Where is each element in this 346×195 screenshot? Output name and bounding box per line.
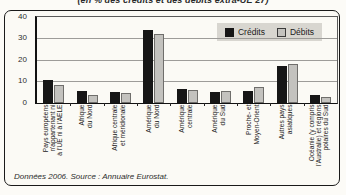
y-tick-label-40: 40	[5, 12, 31, 21]
bar-credits	[177, 89, 187, 103]
category-label: Proche- et Moyen-Orient	[235, 104, 268, 174]
gridline-20	[37, 60, 337, 61]
category-label: Océanie (y compris l'Australie) et régio…	[302, 104, 335, 174]
bar-credits	[43, 80, 53, 103]
bar-credits	[277, 66, 287, 103]
bar-debits	[154, 34, 164, 103]
category-label: Pays européens n'appartenant ni à l'UE n…	[35, 104, 68, 174]
plot-wrap: Crédits Débits 010203040Pays européens n…	[5, 11, 339, 185]
plot-area: Crédits Débits	[35, 16, 338, 104]
y-tick-label-30: 30	[5, 33, 31, 42]
bar-credits	[243, 91, 253, 103]
gridline-30	[37, 38, 337, 39]
category-label: Amérique centrale	[169, 104, 202, 174]
bar-credits	[210, 92, 220, 103]
chart-title: (en % des crédits et des débits extra-UE…	[0, 0, 346, 5]
category-label: Amérique du Nord	[135, 104, 168, 174]
y-tick-label-10: 10	[5, 76, 31, 85]
bar-debits	[288, 64, 298, 103]
bar-credits	[143, 30, 153, 103]
chart-box: Crédits Débits 010203040Pays européens n…	[4, 10, 340, 186]
category-label: Afrique du Nord	[69, 104, 102, 174]
credits-swatch-icon	[225, 28, 234, 37]
legend-item-debits: Débits	[277, 27, 314, 37]
source-note: Données 2006. Source : Annuaire Eurostat…	[14, 172, 168, 181]
category-label: Autres pays asiatiques	[269, 104, 302, 174]
y-tick-label-20: 20	[5, 55, 31, 64]
debits-swatch-icon	[277, 28, 286, 37]
bar-debits	[254, 87, 264, 103]
legend-credits-label: Crédits	[238, 27, 265, 37]
category-label: Afrique centrale et méridionale	[102, 104, 135, 174]
bar-debits	[321, 97, 331, 103]
bar-credits	[77, 91, 87, 103]
bar-debits	[188, 90, 198, 103]
legend-debits-label: Débits	[290, 27, 314, 37]
y-tick-label-0: 0	[5, 98, 31, 107]
bar-debits	[88, 95, 98, 103]
bar-debits	[54, 85, 64, 103]
legend-item-credits: Crédits	[225, 27, 265, 37]
bar-debits	[121, 93, 131, 103]
bar-credits	[110, 92, 120, 103]
bar-credits	[310, 95, 320, 103]
category-label: Amérique du Sud	[202, 104, 235, 174]
bar-debits	[221, 91, 231, 103]
